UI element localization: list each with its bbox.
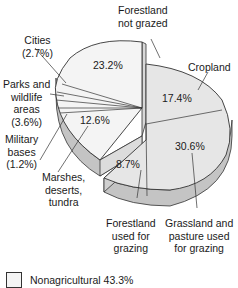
label-line: (2.7%) xyxy=(22,47,53,60)
label-line: deserts, xyxy=(42,184,85,197)
pct-grassland: 30.6% xyxy=(175,140,205,152)
label-line: wildlife xyxy=(3,91,50,104)
label-line: Cropland xyxy=(188,61,231,74)
label-line: (3.6%) xyxy=(3,116,50,129)
label-line: Parks and xyxy=(3,78,50,91)
label-forest-grazing: Forestland used for grazing xyxy=(106,217,156,255)
label-line: Forestland xyxy=(106,217,156,230)
label-line: areas xyxy=(3,103,50,116)
label-line: for grazing xyxy=(165,242,233,255)
label-parks: Parks and wildlife areas (3.6%) xyxy=(3,78,50,128)
label-marshes: Marshes, deserts, tundra xyxy=(42,171,85,209)
label-line: Grassland and xyxy=(165,217,233,230)
label-line: (1.2%) xyxy=(5,158,38,171)
pct-marshes: 12.6% xyxy=(80,114,110,126)
legend-swatch-nonagricultural xyxy=(6,272,22,288)
label-line: grazing xyxy=(106,242,156,255)
label-line: bases xyxy=(5,146,38,159)
label-grassland: Grassland and pasture used for grazing xyxy=(165,217,233,255)
label-cropland: Cropland xyxy=(188,61,231,74)
label-line: Military xyxy=(5,133,38,146)
label-cities: Cities (2.7%) xyxy=(22,34,53,59)
label-line: pasture used xyxy=(165,230,233,243)
label-line: Forestland xyxy=(118,4,168,17)
pct-forest-not-grazed: 23.2% xyxy=(93,59,123,71)
nonag-right-side xyxy=(142,42,146,136)
legend: Nonagricultural 43.3% xyxy=(6,272,133,288)
legend-label-nonagricultural: Nonagricultural 43.3% xyxy=(30,274,133,286)
label-line: Marshes, xyxy=(42,171,85,184)
pct-forest-grazing: 8.7% xyxy=(116,158,140,170)
label-line: tundra xyxy=(42,196,85,209)
pct-cropland: 17.4% xyxy=(162,92,192,104)
label-line: Cities xyxy=(22,34,53,47)
label-forest-not-grazed: Forestland not grazed xyxy=(118,4,168,29)
label-line: used for xyxy=(106,230,156,243)
label-line: not grazed xyxy=(118,17,168,30)
label-military: Military bases (1.2%) xyxy=(5,133,38,171)
